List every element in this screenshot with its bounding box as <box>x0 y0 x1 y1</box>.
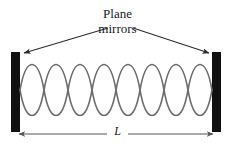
left-plane-mirror <box>11 52 20 132</box>
caption-line-mirrors: mirrors <box>0 22 235 37</box>
standing-wave-between-plane-mirrors-figure: Plane mirrors L <box>0 0 235 147</box>
caption-line-plane: Plane <box>0 7 235 22</box>
cavity-length-label: L <box>0 125 235 138</box>
length-symbol: L <box>110 124 125 138</box>
right-plane-mirror <box>212 52 221 132</box>
plane-mirrors-caption: Plane mirrors <box>0 7 235 36</box>
